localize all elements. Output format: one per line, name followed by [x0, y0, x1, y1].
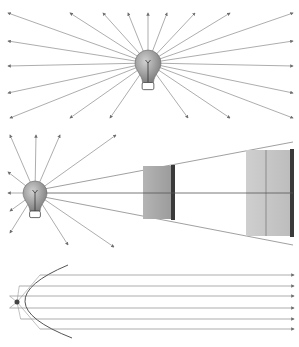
ray-arrow: [40, 196, 114, 247]
ray-arrow: [154, 13, 293, 61]
ray-arrow: [40, 135, 116, 190]
panel-inverse-square: [8, 135, 294, 247]
panel-point-source: [8, 13, 293, 118]
ray-arrow: [8, 64, 142, 93]
ray-arrow: [8, 63, 142, 66]
bulb-base: [30, 211, 41, 218]
plate-edge: [171, 165, 175, 220]
ray-arrow: [152, 68, 188, 118]
ray-arrow: [37, 135, 60, 187]
ray-arrow: [8, 13, 142, 61]
bulb-base: [142, 83, 154, 90]
ray-arrow: [70, 66, 143, 118]
light-bulb-icon: [135, 50, 161, 90]
ray-arrow: [35, 135, 36, 187]
reflected-ray: [17, 275, 40, 302]
near-plate: [143, 165, 175, 220]
light-radiation-diagram: [0, 0, 299, 347]
ray-arrow: [153, 66, 230, 118]
reflected-ray: [17, 302, 40, 329]
panel-parabolic-reflector: [10, 265, 294, 338]
ray-arrow: [110, 68, 145, 118]
ray-arrow: [103, 13, 144, 59]
plate-face: [143, 166, 171, 219]
ray-arrow: [10, 65, 142, 118]
ray-arrow: [154, 65, 293, 118]
light-bulb-icon: [23, 181, 47, 218]
focus-point: [15, 300, 20, 305]
ray-arrow: [8, 41, 142, 62]
ray-arrow: [154, 63, 293, 66]
ray-arrow: [154, 41, 293, 62]
ray-arrow: [154, 64, 293, 93]
ray-arrow: [10, 135, 33, 187]
parabolic-reflector-curve: [25, 265, 72, 338]
